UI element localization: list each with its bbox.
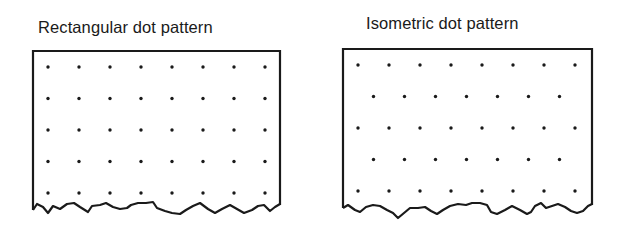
rectangular-dot — [170, 65, 173, 68]
isometric-dot — [418, 63, 421, 66]
rectangular-dot — [232, 160, 235, 163]
rectangular-dot — [170, 128, 173, 131]
isometric-dot — [403, 158, 406, 161]
isometric-dot — [356, 126, 359, 129]
isometric-dot — [527, 158, 530, 161]
rectangular-dot — [139, 191, 142, 194]
rectangular-dot — [201, 128, 204, 131]
rectangular-dot — [263, 160, 266, 163]
isometric-dot — [511, 63, 514, 66]
rectangular-dot — [139, 97, 142, 100]
rectangular-dot — [77, 160, 80, 163]
isometric-dot — [511, 126, 514, 129]
rectangular-dot — [77, 65, 80, 68]
isometric-dot — [449, 189, 452, 192]
rectangular-dot — [108, 160, 111, 163]
rectangular-dot — [170, 160, 173, 163]
rectangular-dot — [77, 191, 80, 194]
rectangular-dot — [170, 97, 173, 100]
isometric-panel-torn-edge — [343, 203, 592, 218]
isometric-dot — [573, 126, 576, 129]
isometric-dot — [403, 95, 406, 98]
isometric-dot — [542, 63, 545, 66]
isometric-dot — [465, 95, 468, 98]
rectangular-dot — [232, 128, 235, 131]
rectangular-panel-frame — [33, 51, 280, 210]
rectangular-dot — [77, 128, 80, 131]
isometric-dot — [434, 95, 437, 98]
rectangular-dot — [263, 65, 266, 68]
rectangular-dot — [46, 191, 49, 194]
isometric-dot — [527, 95, 530, 98]
rectangular-dot — [201, 191, 204, 194]
isometric-dot — [511, 189, 514, 192]
rectangular-dot — [139, 65, 142, 68]
isometric-dot — [434, 158, 437, 161]
rectangular-dot — [232, 97, 235, 100]
isometric-dot — [573, 63, 576, 66]
isometric-dot — [387, 189, 390, 192]
rectangular-dot-panel — [33, 51, 280, 214]
isometric-dot — [496, 95, 499, 98]
rectangular-dot — [263, 128, 266, 131]
rectangular-dot — [108, 65, 111, 68]
rectangular-dot — [46, 128, 49, 131]
isometric-dot-panel — [343, 49, 592, 218]
rectangular-panel-torn-edge — [33, 202, 280, 214]
isometric-dot — [372, 95, 375, 98]
isometric-dot — [387, 63, 390, 66]
isometric-dot — [418, 189, 421, 192]
isometric-dot — [480, 63, 483, 66]
isometric-dot — [418, 126, 421, 129]
rectangular-dot-grid — [46, 65, 266, 194]
rectangular-dot — [232, 191, 235, 194]
isometric-dot — [558, 158, 561, 161]
rectangular-dot — [108, 191, 111, 194]
isometric-dot — [465, 158, 468, 161]
rectangular-dot — [77, 97, 80, 100]
isometric-dot — [480, 189, 483, 192]
rectangular-dot — [108, 128, 111, 131]
rectangular-dot — [201, 65, 204, 68]
dot-pattern-diagram — [0, 0, 617, 236]
rectangular-dot — [263, 97, 266, 100]
isometric-dot — [542, 126, 545, 129]
isometric-dot — [449, 126, 452, 129]
isometric-dot — [558, 95, 561, 98]
rectangular-dot — [201, 160, 204, 163]
isometric-dot — [387, 126, 390, 129]
isometric-panel-frame — [343, 49, 592, 208]
isometric-dot — [542, 189, 545, 192]
isometric-dot-grid — [356, 63, 576, 192]
isometric-dot — [496, 158, 499, 161]
rectangular-dot — [46, 160, 49, 163]
isometric-dot — [449, 63, 452, 66]
rectangular-dot — [170, 191, 173, 194]
rectangular-dot — [46, 65, 49, 68]
rectangular-dot — [139, 128, 142, 131]
rectangular-dot — [139, 160, 142, 163]
isometric-dot — [356, 189, 359, 192]
isometric-dot — [372, 158, 375, 161]
rectangular-dot — [46, 97, 49, 100]
isometric-dot — [573, 189, 576, 192]
isometric-dot — [480, 126, 483, 129]
rectangular-dot — [232, 65, 235, 68]
rectangular-dot — [108, 97, 111, 100]
isometric-dot — [356, 63, 359, 66]
rectangular-dot — [201, 97, 204, 100]
rectangular-dot — [263, 191, 266, 194]
